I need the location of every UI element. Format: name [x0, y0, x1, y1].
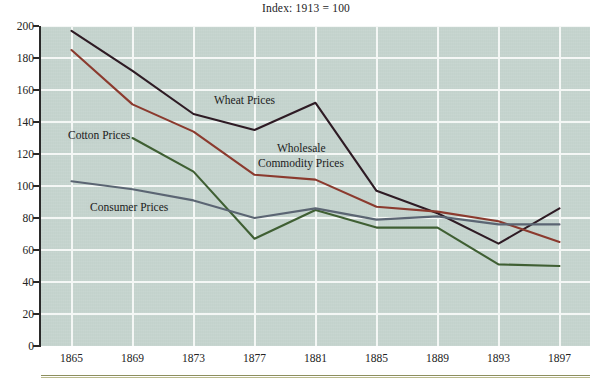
- x-tick-label: 1893: [469, 352, 529, 364]
- y-tick-label: 200: [0, 20, 34, 32]
- price-index-line-chart: Index: 1913 = 100 0204060801001201401601…: [0, 0, 612, 382]
- chart-title: Index: 1913 = 100: [0, 2, 612, 14]
- y-tick-label: 120: [0, 148, 34, 160]
- series-label-consumer: Consumer Prices: [90, 201, 168, 214]
- y-tick-mark: [33, 25, 39, 27]
- y-tick-mark: [33, 89, 39, 91]
- y-tick-label: 100: [0, 180, 34, 192]
- y-tick-mark: [33, 185, 39, 187]
- x-tick-label: 1873: [164, 352, 224, 364]
- series-label-wholesale-line1: Wholesale: [277, 142, 326, 155]
- series-label-wholesale-line2: Commodity Prices: [258, 157, 344, 170]
- y-tick-mark: [33, 57, 39, 59]
- x-tick-label: 1877: [225, 352, 285, 364]
- y-tick-mark: [33, 217, 39, 219]
- footer-rule-lower: [41, 377, 590, 378]
- footer-rule-upper: [41, 375, 590, 376]
- y-tick-mark: [33, 345, 39, 347]
- y-tick-mark: [33, 313, 39, 315]
- y-tick-label: 0: [0, 340, 34, 352]
- x-tick-label: 1885: [347, 352, 407, 364]
- y-tick-mark: [33, 249, 39, 251]
- y-tick-label: 80: [0, 212, 34, 224]
- series-label-wheat: Wheat Prices: [214, 94, 275, 107]
- series-label-cotton: Cotton Prices: [68, 129, 130, 142]
- series-layer: [41, 26, 590, 346]
- x-tick-label: 1865: [42, 352, 102, 364]
- y-tick-label: 180: [0, 52, 34, 64]
- x-tick-label: 1889: [408, 352, 468, 364]
- y-tick-label: 40: [0, 276, 34, 288]
- x-tick-label: 1897: [530, 352, 590, 364]
- y-tick-label: 60: [0, 244, 34, 256]
- x-tick-label: 1881: [286, 352, 346, 364]
- y-tick-mark: [33, 121, 39, 123]
- y-tick-mark: [33, 281, 39, 283]
- y-tick-label: 160: [0, 84, 34, 96]
- x-tick-label: 1869: [103, 352, 163, 364]
- y-tick-label: 20: [0, 308, 34, 320]
- y-tick-label: 140: [0, 116, 34, 128]
- y-tick-mark: [33, 153, 39, 155]
